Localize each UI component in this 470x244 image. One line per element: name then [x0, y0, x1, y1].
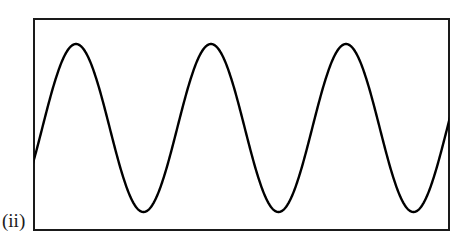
waveform-diagram [0, 0, 470, 244]
figure-container: (ii) [0, 0, 470, 244]
plot-frame [34, 19, 449, 230]
figure-label-ii: (ii) [2, 206, 32, 236]
